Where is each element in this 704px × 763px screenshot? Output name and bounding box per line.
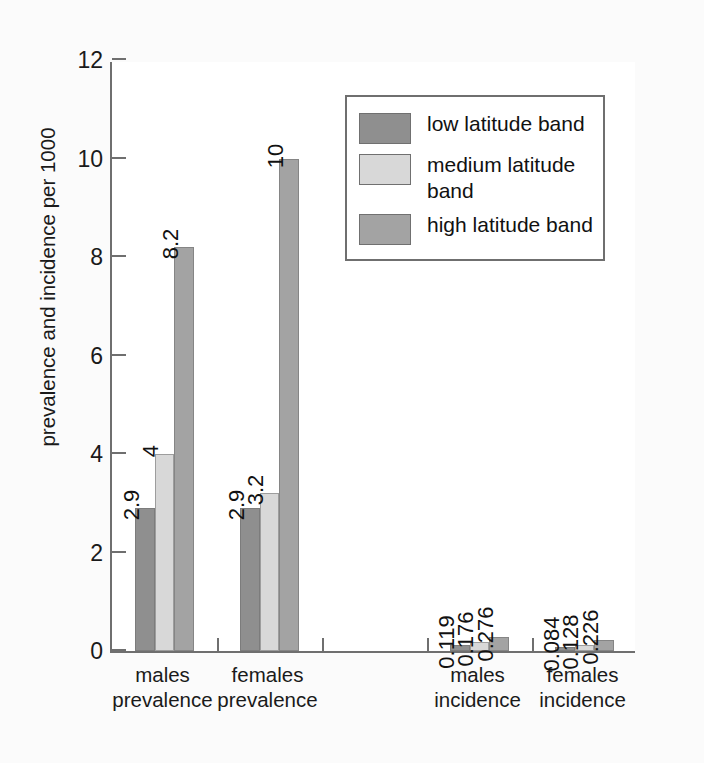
y-axis-tick: 0	[112, 649, 126, 651]
y-axis-tick: 12	[112, 58, 126, 60]
x-axis-group-label: femalesprevalence	[168, 662, 368, 712]
bar-value-label: 4	[138, 445, 164, 457]
y-axis-title: prevalence and incidence per 1000	[36, 0, 60, 587]
bar: 3.2	[260, 493, 280, 651]
y-axis-tick-label: 4	[90, 441, 103, 468]
chart-figure: prevalence and incidence per 1000 024681…	[0, 0, 704, 763]
bar: 10	[279, 159, 299, 652]
bar-value-label: 8.2	[158, 229, 184, 260]
bar-value-label: 0.276	[473, 607, 499, 662]
y-axis-tick-label: 2	[90, 540, 103, 567]
x-axis-tick	[427, 638, 429, 651]
x-axis-group-label: femalesincidence	[483, 662, 683, 712]
bar: 4	[155, 454, 175, 651]
legend-item: low latitude band	[347, 107, 603, 148]
bar-value-label: 3.2	[243, 475, 269, 506]
bar: 2.9	[135, 508, 155, 651]
y-axis-tick-label: 0	[90, 638, 103, 665]
x-axis-tick	[217, 638, 219, 651]
x-axis-tick	[532, 638, 534, 651]
legend-item-label: medium latitude band	[427, 152, 593, 204]
y-axis-tick-label: 12	[77, 47, 103, 74]
bar-value-label: 0.226	[578, 609, 604, 664]
y-axis-tick: 8	[112, 255, 126, 257]
legend-swatch-icon	[359, 154, 411, 185]
legend-item: medium latitude band	[347, 148, 603, 208]
chart-legend: low latitude bandmedium latitude bandhig…	[345, 95, 605, 261]
bar: 8.2	[174, 247, 194, 651]
bar-value-label: 2.9	[119, 490, 145, 521]
x-axis-group-label-line: females	[483, 662, 683, 687]
bar: 2.9	[240, 508, 260, 651]
legend-item-label: high latitude band	[427, 212, 593, 238]
legend-swatch-icon	[359, 113, 411, 144]
legend-swatch-icon	[359, 214, 411, 245]
x-axis-tick	[322, 638, 324, 651]
y-axis-tick: 4	[112, 452, 126, 454]
y-axis-tick-label: 8	[90, 244, 103, 271]
legend-item-label: low latitude band	[427, 111, 585, 137]
y-axis-tick: 10	[112, 157, 126, 159]
x-axis-group-label-line: incidence	[483, 687, 683, 712]
y-axis-tick-label: 6	[90, 343, 103, 370]
bar: 0.226	[594, 640, 614, 651]
bar-value-label: 10	[263, 143, 289, 167]
y-axis-tick-label: 10	[77, 146, 103, 173]
y-axis-tick: 2	[112, 551, 126, 553]
x-axis-group-label-line: females	[168, 662, 368, 687]
x-axis-group-label-line: prevalence	[168, 687, 368, 712]
bar: 0.276	[489, 637, 509, 651]
legend-item: high latitude band	[347, 208, 603, 249]
y-axis-tick: 6	[112, 354, 126, 356]
